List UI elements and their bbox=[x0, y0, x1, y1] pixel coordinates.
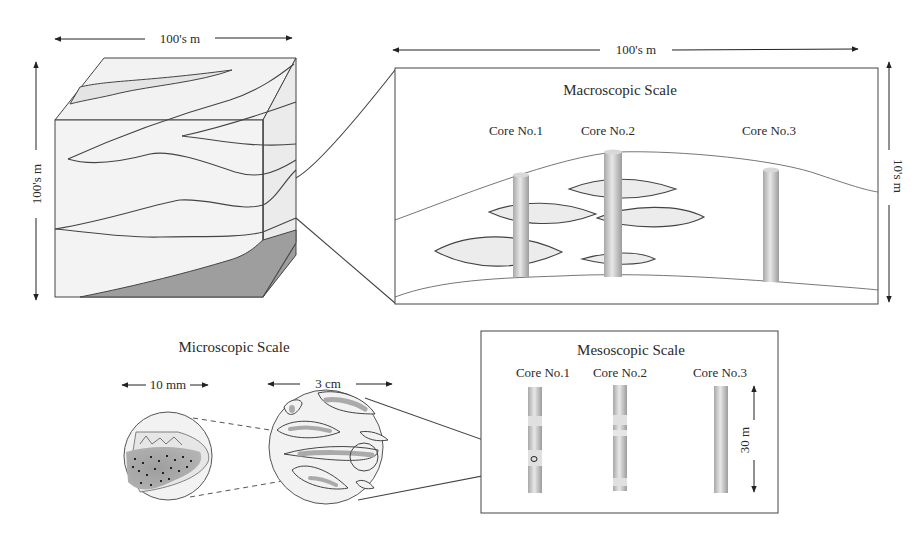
block-height-label: 100's m bbox=[29, 164, 44, 204]
large-circle-dimension: 3 cm bbox=[268, 376, 392, 391]
meso-title: Mesoscopic Scale bbox=[577, 342, 685, 358]
meso-core-2-label: Core No.2 bbox=[593, 365, 647, 380]
macro-height-dimension: 10's m bbox=[889, 62, 906, 302]
microscopic-section: Microscopic Scale 10 mm 3 cm bbox=[122, 339, 534, 504]
macro-width-label: 100's m bbox=[616, 42, 656, 57]
small-circle-label: 10 mm bbox=[150, 377, 186, 392]
block-width-dimension: 100's m bbox=[55, 31, 292, 46]
macro-title: Macroscopic Scale bbox=[563, 82, 677, 98]
macro-width-dimension: 100's m bbox=[393, 42, 858, 57]
core-plug-circle bbox=[269, 390, 388, 504]
zoom-connector-block-to-macro bbox=[296, 70, 395, 303]
macro-core-2-label: Core No.2 bbox=[581, 123, 635, 138]
multiscale-reservoir-diagram: 100's m 100's m bbox=[0, 0, 921, 541]
block-diagram: 100's m 100's m bbox=[29, 31, 296, 300]
block-width-label: 100's m bbox=[160, 31, 200, 46]
micro-title: Microscopic Scale bbox=[178, 339, 290, 355]
macro-core-3-label: Core No.3 bbox=[742, 123, 796, 138]
large-circle-label: 3 cm bbox=[315, 376, 341, 391]
block-height-dimension: 100's m bbox=[29, 62, 44, 300]
macro-core-1-label: Core No.1 bbox=[489, 123, 543, 138]
macro-height-label: 10's m bbox=[891, 159, 906, 193]
meso-core-1-label: Core No.1 bbox=[516, 365, 570, 380]
pore-scale-circle bbox=[124, 412, 212, 500]
meso-core-3-label: Core No.3 bbox=[693, 365, 747, 380]
small-circle-dimension: 10 mm bbox=[122, 377, 208, 392]
macroscopic-panel: 100's m 10's m Macroscopic Scale Core No… bbox=[393, 42, 906, 304]
meso-height-label: 30 m bbox=[737, 427, 752, 453]
mesoscopic-panel: Mesoscopic Scale Core No.1 Core No.2 Cor… bbox=[481, 331, 778, 513]
